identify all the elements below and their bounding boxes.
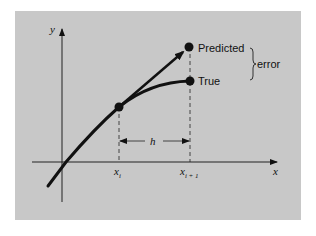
tangent-arrow	[119, 52, 183, 107]
y-axis-label: y	[49, 23, 55, 35]
error-label: error	[257, 58, 281, 70]
xi-label: xi	[113, 165, 121, 180]
predicted-point	[185, 43, 194, 52]
true-label: True	[198, 75, 220, 87]
h-label: h	[150, 135, 156, 147]
xi-point	[115, 103, 124, 112]
diagram-svg: y x h Predicted True error xi xi + 1	[0, 0, 316, 236]
true-curve	[48, 81, 190, 186]
x-axis-label: x	[272, 165, 278, 177]
true-point	[186, 77, 195, 86]
error-brace	[250, 48, 256, 80]
xi1-label: xi + 1	[179, 165, 199, 180]
predicted-label: Predicted	[198, 42, 244, 54]
